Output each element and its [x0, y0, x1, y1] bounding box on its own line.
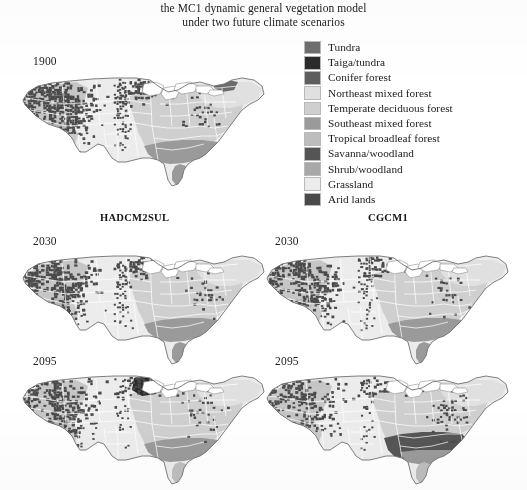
vegetation-pixel [74, 313, 77, 315]
vegetation-pixel [57, 93, 60, 95]
vegetation-pixel [35, 282, 38, 284]
vegetation-pixel [182, 257, 185, 260]
vegetation-pixel [43, 128, 47, 130]
vegetation-pixel [116, 108, 118, 110]
vegetation-pixel [336, 294, 339, 296]
vegetation-pixel [122, 101, 124, 103]
vegetation-pixel [64, 395, 67, 397]
vegetation-pixel [25, 126, 28, 128]
vegetation-pixel [326, 265, 329, 267]
vegetation-pixel [182, 124, 185, 126]
vegetation-pixel [31, 304, 34, 306]
vegetation-pixel [366, 442, 368, 444]
vegetation-pixel [49, 389, 51, 391]
vegetation-pixel [56, 433, 59, 435]
map-cgcm1-2095 [262, 372, 512, 490]
vegetation-pixel [30, 100, 33, 102]
vegetation-pixel [140, 92, 142, 95]
vegetation-pixel [41, 430, 43, 432]
vegetation-pixel [69, 273, 72, 276]
vegetation-pixel [329, 265, 332, 268]
vegetation-pixel [93, 405, 96, 408]
vegetation-pixel [33, 96, 36, 98]
vegetation-pixel [67, 265, 69, 267]
vegetation-pixel [56, 430, 59, 432]
vegetation-pixel [218, 123, 221, 125]
vegetation-pixel [41, 82, 44, 85]
vegetation-pixel [301, 402, 303, 405]
vegetation-pixel [46, 389, 49, 392]
vegetation-pixel [30, 272, 33, 274]
vegetation-pixel [196, 107, 199, 109]
vegetation-pixel [53, 287, 56, 290]
vegetation-pixel [75, 278, 77, 280]
vegetation-pixel [117, 117, 119, 119]
vegetation-pixel [69, 87, 72, 90]
vegetation-pixel [216, 111, 218, 113]
vegetation-pixel [440, 287, 443, 290]
vegetation-pixel [313, 405, 316, 408]
vegetation-pixel [33, 440, 35, 443]
vegetation-pixel [67, 320, 70, 323]
vegetation-pixel [116, 114, 119, 116]
vegetation-pixel [72, 291, 75, 293]
vegetation-pixel [303, 264, 305, 267]
vegetation-pixel [122, 392, 124, 394]
vegetation-pixel [30, 394, 33, 396]
vegetation-pixel [93, 111, 96, 113]
vegetation-pixel [280, 278, 283, 280]
legend-label: Northeast mixed forest [328, 87, 432, 100]
vegetation-pixel [267, 291, 269, 293]
vegetation-pixel [298, 409, 301, 411]
vegetation-pixel [31, 424, 34, 426]
vegetation-pixel [28, 307, 31, 309]
legend-swatch [304, 193, 321, 207]
vegetation-pixel [202, 402, 205, 404]
vegetation-pixel [59, 282, 62, 285]
vegetation-pixel [438, 407, 440, 410]
vegetation-pixel [365, 258, 367, 260]
vegetation-pixel [56, 282, 58, 284]
vegetation-pixel [46, 413, 49, 416]
vegetation-pixel [59, 392, 63, 395]
vegetation-pixel [330, 324, 332, 326]
vegetation-pixel [465, 318, 468, 320]
vegetation-pixel [85, 285, 88, 288]
vegetation-pixel [46, 281, 49, 284]
vegetation-pixel [26, 418, 29, 421]
vegetation-pixel [67, 295, 70, 298]
vegetation-pixel [321, 425, 324, 427]
legend-swatch [304, 177, 321, 191]
vegetation-pixel [114, 378, 116, 380]
vegetation-pixel [90, 382, 92, 385]
vegetation-pixel [85, 413, 88, 416]
vegetation-pixel [78, 287, 81, 289]
vegetation-pixel [77, 273, 80, 275]
vegetation-pixel [137, 87, 140, 89]
vegetation-pixel [129, 263, 132, 266]
vegetation-pixel [335, 378, 338, 381]
vegetation-pixel [28, 402, 30, 405]
vegetation-pixel [54, 120, 57, 123]
vegetation-pixel [61, 106, 63, 109]
vegetation-pixel [324, 308, 326, 310]
vegetation-pixel [376, 383, 379, 386]
vegetation-pixel [82, 120, 85, 122]
vegetation-pixel [117, 110, 119, 112]
vegetation-pixel [64, 95, 67, 98]
vegetation-pixel [216, 123, 218, 125]
vegetation-pixel [95, 104, 98, 107]
vegetation-pixel [68, 308, 70, 310]
vegetation-pixel [140, 273, 142, 275]
vegetation-pixel [98, 392, 101, 395]
vegetation-pixel [69, 120, 72, 122]
vegetation-pixel [264, 285, 267, 287]
vegetation-pixel [120, 142, 122, 144]
vegetation-pixel [25, 124, 29, 126]
vegetation-pixel [466, 422, 469, 424]
vegetation-pixel [210, 296, 213, 298]
vegetation-pixel [275, 402, 278, 405]
vegetation-pixel [49, 80, 52, 82]
vegetation-pixel [67, 82, 70, 85]
vegetation-pixel [93, 100, 95, 102]
